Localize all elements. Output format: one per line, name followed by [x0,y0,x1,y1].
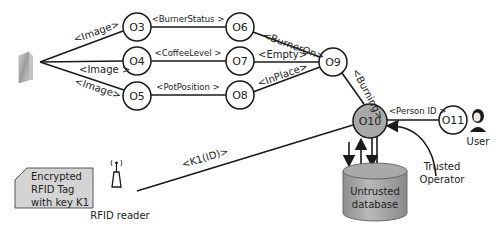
svg-text:O7: O7 [232,55,248,68]
svg-text:O6: O6 [232,21,248,34]
edge-label-coffeelevel: <CoffeeLevel > [155,48,222,58]
svg-text:O8: O8 [232,89,248,102]
rfid-reader-icon [111,160,122,187]
rfid-tag-label-1: Encrypted [31,171,82,182]
node-o5: O5 [123,82,151,110]
database-label-1: Untrusted [350,186,400,197]
node-o7: O7 [226,47,254,75]
edge-label-empty: <Empty> [258,49,307,60]
database-label-2: database [352,199,398,210]
node-o3: O3 [123,13,151,41]
svg-text:O4: O4 [129,55,145,68]
user-label: User [467,136,491,147]
node-o8: O8 [226,81,254,109]
edge-label-image-o4: <Image > [79,64,130,75]
edge-label-person-id: <Person ID > [389,106,446,116]
rfid-tag-label-3: with key K1 [31,197,89,208]
svg-text:O5: O5 [129,90,145,103]
edge-label-image-o5: <Image> [73,75,122,100]
user-icon [470,109,486,132]
edge-label-k1-id: <K1(ID)> [180,145,229,170]
edge-label-potposition: <PotPosition > [156,82,219,92]
rfid-tag-label-2: RFID Tag [31,184,74,195]
svg-text:O9: O9 [325,56,341,69]
trusted-operator-label-1: Trusted [423,161,461,172]
rfid-reader-label: RFID reader [90,210,150,221]
edge-label-burnerstatus: <BurnerStatus > [152,14,225,24]
camera-icon [19,52,33,83]
svg-text:O3: O3 [129,21,145,34]
trusted-operator-label-2: Operator [420,174,466,185]
diagram-canvas: O3 O4 O5 O6 O7 O8 O9 O10 O11 <Image> <Im… [0,0,502,237]
node-o6: O6 [226,13,254,41]
